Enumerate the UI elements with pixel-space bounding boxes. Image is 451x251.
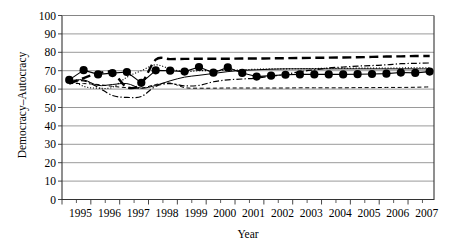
y-tick-label: 100 [39, 10, 57, 22]
y-tick-label: 0 [50, 194, 56, 206]
gridlines [62, 16, 434, 200]
data-point-marker [166, 67, 174, 75]
y-axis-ticks: 0102030405060708090100 [39, 10, 62, 206]
x-axis-ticks: 1995199619971998199920002001200220032004… [62, 200, 438, 219]
x-tick-label: 2005 [357, 207, 380, 219]
x-tick-label: 2003 [300, 207, 323, 219]
x-tick-label: 2004 [329, 207, 352, 219]
y-tick-label: 50 [45, 102, 57, 114]
data-point-marker [426, 68, 434, 76]
y-tick-label: 30 [45, 138, 57, 150]
data-point-marker [209, 69, 217, 77]
data-point-marker [195, 63, 203, 71]
data-point-marker [339, 70, 347, 78]
x-tick-label: 1997 [127, 207, 150, 219]
data-point-marker [238, 69, 246, 77]
data-point-marker [65, 76, 73, 84]
x-axis-title: Year [62, 228, 434, 240]
y-tick-label: 90 [45, 28, 57, 40]
y-tick-label: 40 [45, 120, 57, 132]
x-tick-label: 1995 [69, 207, 92, 219]
chart-plot-area: 0102030405060708090100 19951996199719981… [0, 0, 451, 251]
y-tick-label: 10 [45, 175, 57, 187]
y-tick-label: 80 [45, 46, 57, 58]
chart-figure: Democracy–Autocracy 01020304050607080901… [0, 0, 451, 251]
data-point-marker [108, 69, 116, 77]
x-tick-label: 2007 [415, 207, 438, 219]
data-point-marker [310, 70, 318, 78]
x-tick-label: 1998 [156, 207, 179, 219]
data-point-marker [325, 70, 333, 78]
data-point-marker [180, 68, 188, 76]
data-point-marker [253, 72, 261, 80]
data-point-marker [224, 63, 232, 71]
y-tick-label: 70 [45, 65, 57, 77]
x-tick-label: 1999 [184, 207, 207, 219]
y-tick-label: 60 [45, 83, 57, 95]
data-point-marker [137, 79, 145, 87]
x-tick-label: 2006 [386, 207, 409, 219]
data-series-group [65, 56, 434, 98]
data-point-marker [267, 72, 275, 80]
x-tick-label: 2002 [271, 207, 294, 219]
data-point-marker [397, 68, 405, 76]
data-point-marker [296, 70, 304, 78]
data-point-marker [80, 66, 88, 74]
x-tick-label: 1996 [98, 207, 121, 219]
y-tick-label: 20 [45, 157, 57, 169]
data-point-marker [368, 70, 376, 78]
data-point-marker [152, 66, 160, 74]
x-tick-label: 2001 [242, 207, 265, 219]
data-point-marker [382, 70, 390, 78]
data-point-marker [123, 68, 131, 76]
data-point-marker [281, 71, 289, 79]
data-point-marker [94, 70, 102, 78]
x-tick-label: 2000 [213, 207, 236, 219]
data-point-marker [411, 69, 419, 77]
data-point-marker [353, 70, 361, 78]
